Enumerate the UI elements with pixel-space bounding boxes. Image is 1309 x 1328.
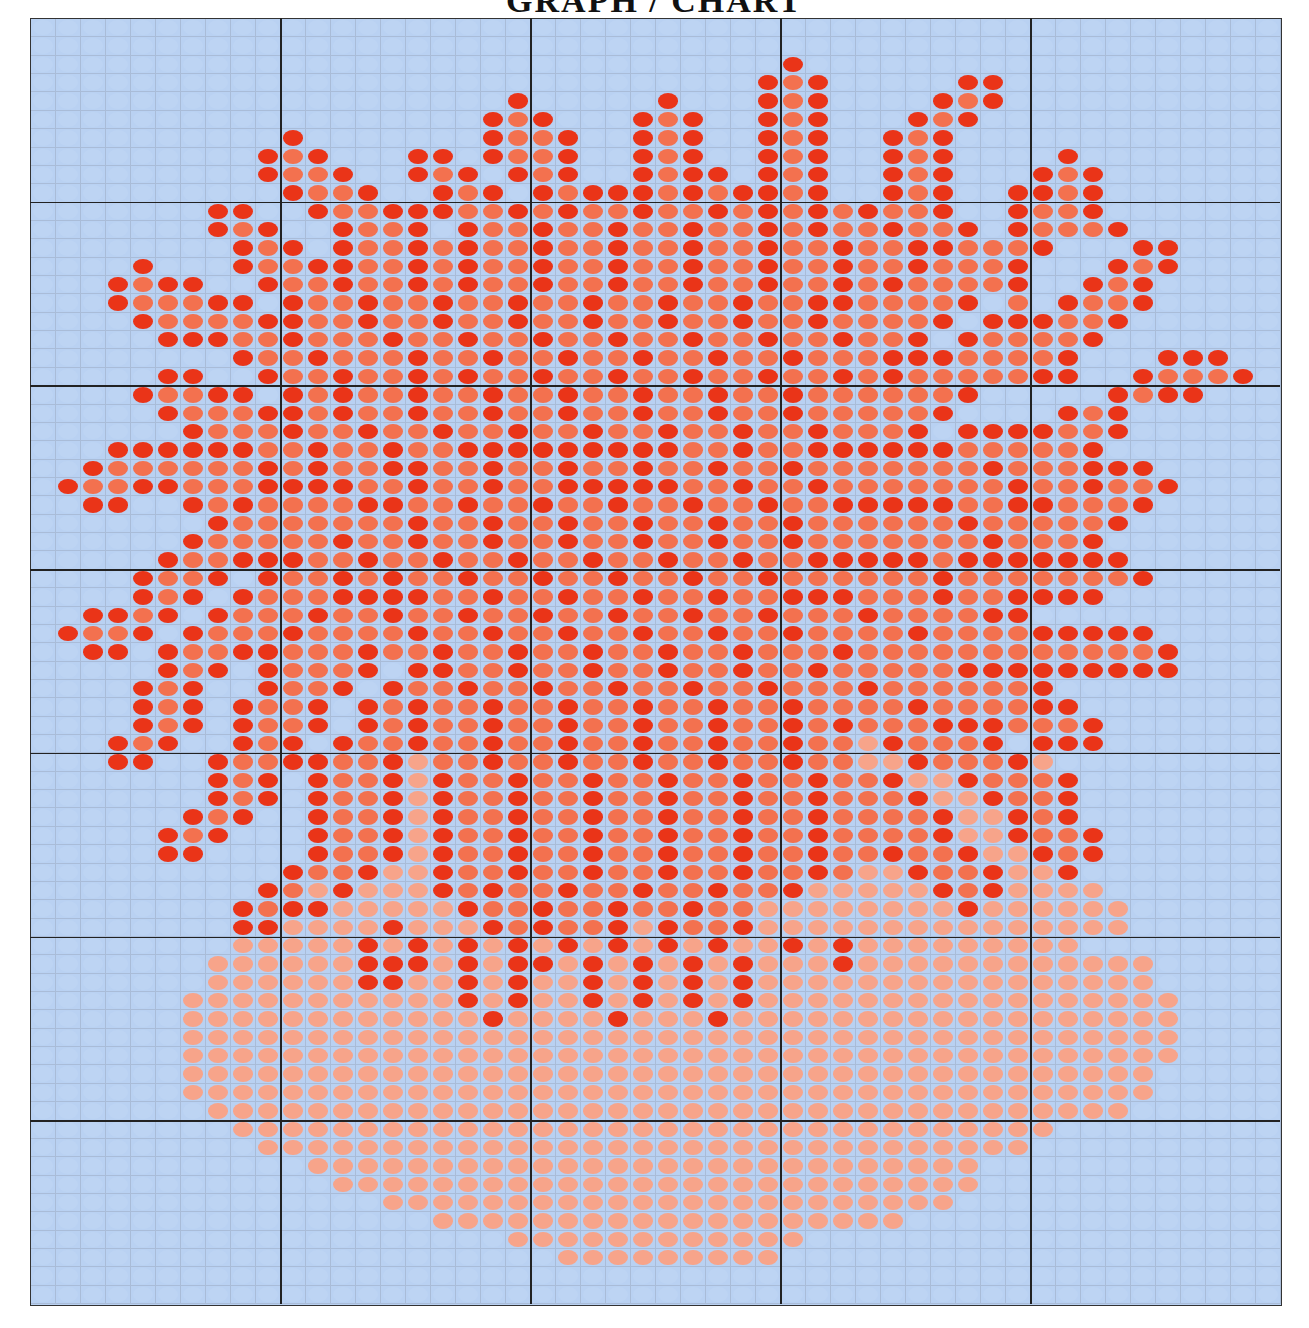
grid-cell [556,313,581,331]
grid-cell [256,1010,281,1028]
grid-cell [81,148,106,166]
grid-cell [731,258,756,276]
grid-cell [656,845,681,863]
grid-cell [1056,974,1081,992]
grid-cell [1231,1102,1256,1120]
grid-cell [331,1084,356,1102]
grid-cell [431,1029,456,1047]
grid-cell [406,1267,431,1285]
grid-cell [756,919,781,937]
grid-cell [1056,331,1081,349]
grid-cell [631,368,656,386]
grid-cell [1256,882,1281,900]
grid-cell [406,1047,431,1065]
grid-cell [531,588,556,606]
grid-cell [231,258,256,276]
grid-cell [606,148,631,166]
grid-cell [981,1249,1006,1267]
grid-cell [356,239,381,257]
grid-cell [281,258,306,276]
grid-cell [331,1157,356,1175]
grid-cell [531,1212,556,1230]
grid-cell [531,864,556,882]
grid-cell [131,239,156,257]
grid-cell [1206,900,1231,918]
grid-cell [1181,1084,1206,1102]
grid-cell [131,864,156,882]
grid-cell [1156,1047,1181,1065]
grid-cell [1231,955,1256,973]
grid-cell [306,478,331,496]
grid-cell [506,1176,531,1194]
grid-cell [456,753,481,771]
grid-cell [881,662,906,680]
grid-cell [1006,423,1031,441]
grid-cell [1256,974,1281,992]
grid-cell [506,717,531,735]
grid-cell [556,1249,581,1267]
grid-cell [181,184,206,202]
grid-cell [156,919,181,937]
grid-cell [356,753,381,771]
grid-cell [406,1231,431,1249]
grid-cell [681,423,706,441]
grid-cell [81,203,106,221]
grid-cell [606,662,631,680]
grid-cell [1206,184,1231,202]
grid-cell [881,588,906,606]
grid-cell [106,148,131,166]
grid-cell [1106,717,1131,735]
grid-cell [1056,588,1081,606]
grid-cell [531,349,556,367]
grid-cell [631,588,656,606]
grid-cell [381,588,406,606]
grid-cell [1156,405,1181,423]
grid-cell [431,790,456,808]
grid-cell [1106,515,1131,533]
grid-cell [756,258,781,276]
grid-cell [1056,772,1081,790]
grid-cell [381,680,406,698]
grid-cell [81,717,106,735]
grid-cell [1106,203,1131,221]
grid-cell [306,184,331,202]
grid-cell [356,625,381,643]
grid-cell [1081,680,1106,698]
grid-cell [981,1047,1006,1065]
grid-cell [56,239,81,257]
grid-cell [1156,1212,1181,1230]
grid-cell [806,992,831,1010]
grid-cell [56,1084,81,1102]
grid-cell [1081,221,1106,239]
grid-cell [906,845,931,863]
grid-cell [831,625,856,643]
grid-cell [1156,478,1181,496]
grid-cell [1181,1157,1206,1175]
grid-cell [1206,368,1231,386]
grid-cell [856,992,881,1010]
grid-cell [1206,166,1231,184]
grid-cell [606,1176,631,1194]
grid-cell [331,331,356,349]
grid-cell [181,1249,206,1267]
grid-cell [556,386,581,404]
grid-cell [181,1047,206,1065]
grid-cell [381,1010,406,1028]
grid-cell [1006,625,1031,643]
grid-cell [681,166,706,184]
grid-cell [381,56,406,74]
grid-cell [81,864,106,882]
grid-cell [431,1249,456,1267]
grid-cell [681,1176,706,1194]
grid-cell [556,937,581,955]
grid-cell [756,753,781,771]
grid-cell [31,974,56,992]
grid-cell [981,294,1006,312]
grid-cell [531,735,556,753]
grid-cell [606,1047,631,1065]
grid-cell [256,1047,281,1065]
grid-cell [356,405,381,423]
grid-cell [431,405,456,423]
grid-cell [381,570,406,588]
grid-cell [581,1267,606,1285]
